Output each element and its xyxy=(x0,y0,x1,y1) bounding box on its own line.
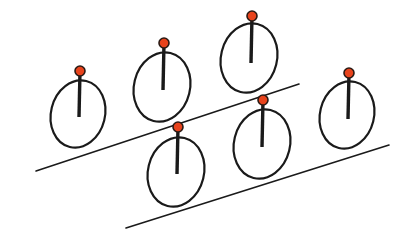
red-marker-ball-icon xyxy=(247,11,257,21)
wheel-rod xyxy=(163,43,164,90)
wheel-rod xyxy=(177,127,178,174)
red-marker-ball-icon xyxy=(159,38,169,48)
red-marker-ball-icon xyxy=(344,68,354,78)
wheel-rod xyxy=(262,100,263,147)
red-marker-ball-icon xyxy=(258,95,268,105)
wheel-rod xyxy=(79,71,80,117)
rolling-wheels-diagram xyxy=(0,0,416,246)
red-marker-ball-icon xyxy=(173,122,183,132)
wheel-rod xyxy=(251,16,252,63)
red-marker-ball-icon xyxy=(75,66,85,76)
background xyxy=(0,0,416,246)
wheel-rod xyxy=(348,73,349,119)
